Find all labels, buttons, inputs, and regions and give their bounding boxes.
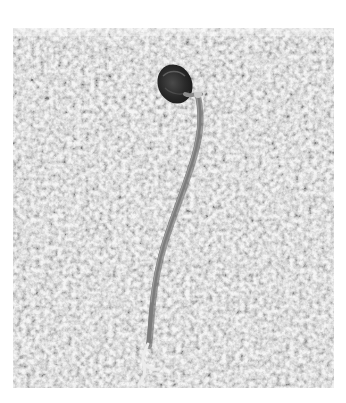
seed-root-photo (13, 28, 334, 388)
image-canvas: Grayscale photo of a sprouting seed with… (0, 0, 346, 403)
photo (13, 28, 334, 388)
